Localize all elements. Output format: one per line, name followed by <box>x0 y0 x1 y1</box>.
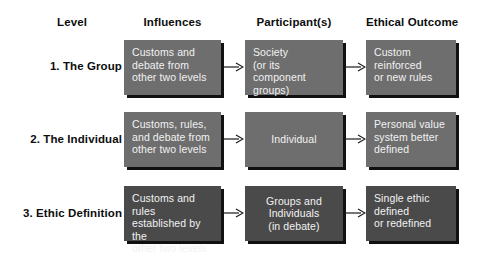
box-participants-individual: Individual <box>245 112 343 167</box>
box-line: other two levels <box>132 143 213 156</box>
arrow-right-icon <box>222 134 244 144</box>
column-header-influences: Influences <box>124 15 221 29</box>
box-influences-ethic-definition: Customs and rules established by the oth… <box>124 186 221 241</box>
column-header-ethical-outcome: Ethical Outcome <box>366 15 456 29</box>
box-line: system better <box>374 131 448 144</box>
arrow-right-icon <box>344 208 366 218</box>
box-participants-group: Society (or its component groups) <box>245 40 343 95</box>
row-label-ethic-definition: 3. Ethic Definition <box>0 207 122 219</box>
box-line: groups) <box>253 84 335 97</box>
box-line: or redefined <box>374 217 448 230</box>
box-line: or new rules <box>374 71 448 84</box>
box-line: debate from <box>132 59 213 72</box>
box-line: Personal value <box>374 118 448 131</box>
box-line: other two levels <box>132 71 213 84</box>
box-participants-ethic-definition: Groups and Individuals (in debate) <box>245 186 343 241</box>
box-outcome-individual: Personal value system better defined <box>366 112 456 167</box>
row-label-individual: 2. The Individual <box>0 133 122 145</box>
box-outcome-ethic-definition: Single ethic defined or redefined <box>366 186 456 241</box>
arrow-right-icon <box>222 208 244 218</box>
box-line: Single ethic <box>374 192 448 205</box>
column-header-participants: Participant(s) <box>245 15 343 29</box>
box-line: Individuals <box>266 207 322 220</box>
box-line: (or its component <box>253 59 335 84</box>
box-line: defined <box>374 143 448 156</box>
box-line: defined <box>374 205 448 218</box>
row-label-group: 1. The Group <box>0 60 122 72</box>
box-line: Customs and rules <box>132 192 213 217</box>
box-line: other two levels <box>132 242 213 254</box>
column-header-level: Level <box>22 15 122 29</box>
box-influences-group: Customs and debate from other two levels <box>124 40 221 95</box>
box-line: Individual <box>271 133 316 146</box>
box-line: Customs and <box>132 46 213 59</box>
box-line: Customs, rules, <box>132 118 213 131</box>
arrow-right-icon <box>344 62 366 72</box>
arrow-right-icon <box>344 134 366 144</box>
box-line: Custom reinforced <box>374 46 448 71</box>
box-line: established by the <box>132 217 213 242</box>
box-line: Society <box>253 46 335 59</box>
ethics-levels-diagram: Level Influences Participant(s) Ethical … <box>0 0 480 254</box>
box-outcome-group: Custom reinforced or new rules <box>366 40 456 95</box>
box-line: and debate from <box>132 131 213 144</box>
box-line: (in debate) <box>266 220 322 233</box>
arrow-right-icon <box>222 62 244 72</box>
box-influences-individual: Customs, rules, and debate from other tw… <box>124 112 221 167</box>
box-line: Groups and <box>266 195 322 208</box>
